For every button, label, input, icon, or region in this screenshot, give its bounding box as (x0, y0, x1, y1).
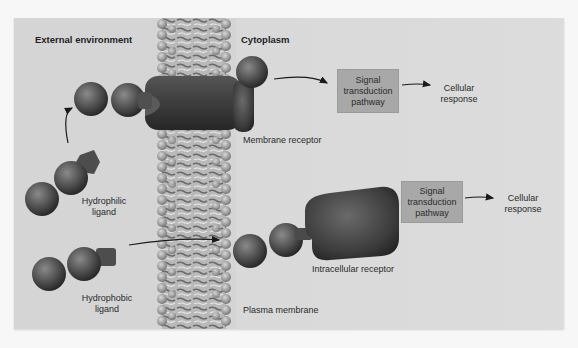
label-external-environment: External environment (35, 34, 132, 45)
intracellular-receptor-shape (233, 187, 399, 268)
hydrophobic-line1: Hydrophobic (74, 293, 140, 304)
pathway-to-response-arrow-top (402, 84, 430, 85)
receptor-to-pathway-arrow (274, 77, 327, 83)
pathway-to-response-arrow-bottom (465, 197, 493, 198)
label-intracellular-receptor: Intracellular receptor (312, 264, 394, 275)
binding-arrow (66, 108, 72, 143)
response-top-line2: response (434, 94, 484, 105)
plasma-membrane-bilayer (162, 18, 226, 329)
label-hydrophobic-ligand: Hydrophobic ligand (74, 293, 140, 315)
box-bottom-line2: transduction (407, 197, 456, 208)
box-bottom-line1: Signal (407, 186, 456, 197)
signal-transduction-box-top: Signal transduction pathway (337, 69, 399, 113)
box-top-line3: pathway (343, 97, 392, 108)
label-membrane-receptor: Membrane receptor (243, 135, 322, 146)
response-bottom-line2: response (498, 204, 548, 215)
hydrophilic-line1: Hydrophilic (74, 196, 134, 207)
label-hydrophilic-ligand: Hydrophilic ligand (74, 196, 134, 218)
free-hydrophobic-ligand (32, 247, 116, 291)
hydrophilic-line2: ligand (74, 207, 134, 218)
box-top-line2: transduction (343, 86, 392, 97)
label-plasma-membrane: Plasma membrane (243, 305, 319, 316)
signal-transduction-box-bottom: Signal transduction pathway (401, 181, 463, 223)
response-bottom-line1: Cellular (498, 193, 548, 204)
label-cytoplasm: Cytoplasm (241, 34, 290, 45)
bound-hydrophilic-ligand (74, 82, 152, 117)
response-top-line1: Cellular (434, 83, 484, 94)
box-top-line1: Signal (343, 75, 392, 86)
hydrophobic-line2: ligand (74, 304, 140, 315)
box-bottom-line3: pathway (407, 208, 456, 219)
cellular-response-bottom: Cellular response (498, 193, 548, 215)
cellular-response-top: Cellular response (434, 83, 484, 105)
